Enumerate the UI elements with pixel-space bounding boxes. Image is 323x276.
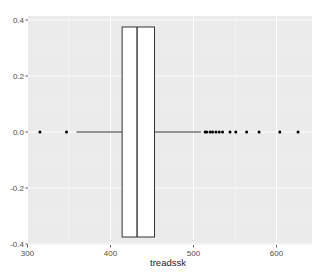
box	[122, 27, 154, 237]
outlier-point	[218, 131, 221, 134]
outlier-point	[245, 131, 248, 134]
iqr-box	[122, 27, 154, 237]
y-tick-label: -0.4	[10, 240, 24, 249]
outlier-point	[205, 131, 208, 134]
outlier-point	[229, 131, 232, 134]
y-tick-label: -0.2	[10, 184, 24, 193]
outlier-point	[234, 131, 237, 134]
x-axis-title: treadssk	[150, 257, 186, 268]
x-tick-label: 400	[104, 249, 118, 258]
boxplot-chart: -0.4-0.20.00.20.4 300400500600 treadssk	[0, 0, 323, 276]
outlier-point	[65, 131, 68, 134]
outlier-point	[38, 131, 41, 134]
outlier-point	[221, 131, 224, 134]
outlier-point	[258, 131, 261, 134]
x-tick-label: 500	[187, 249, 201, 258]
outlier-point	[211, 131, 214, 134]
plot-panel	[28, 16, 312, 245]
y-tick-label: 0.2	[13, 72, 25, 81]
x-tick-label: 300	[21, 249, 35, 258]
outlier-point	[297, 131, 300, 134]
outlier-point	[278, 131, 281, 134]
y-tick-label: 0.4	[13, 16, 25, 25]
y-tick-label: 0.0	[13, 128, 25, 137]
outlier-point	[214, 131, 217, 134]
x-tick-label: 600	[270, 249, 284, 258]
